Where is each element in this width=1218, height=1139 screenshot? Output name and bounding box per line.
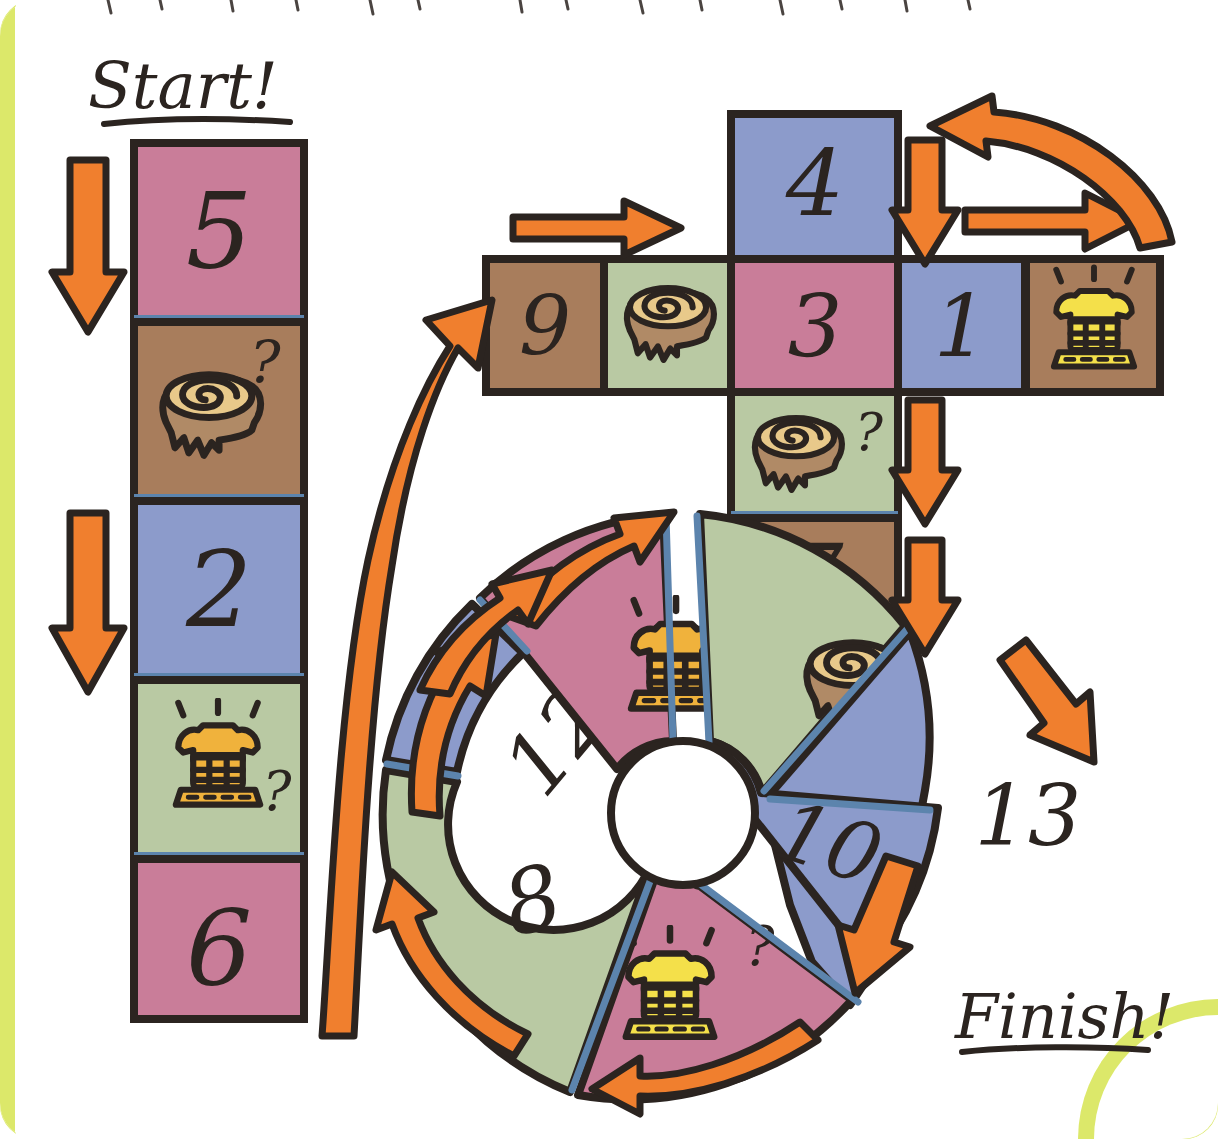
space-1[interactable]: 1	[898, 259, 1025, 392]
wheel-hole	[611, 741, 755, 885]
space-phone-a[interactable]: ?	[134, 680, 304, 856]
space-5[interactable]: 5	[134, 143, 304, 319]
space-stump-b[interactable]: ?	[731, 390, 898, 517]
question-mark: ?	[263, 760, 293, 823]
question-mark: ?	[249, 328, 281, 396]
space-number: 2	[185, 529, 252, 651]
space-4[interactable]: 4	[731, 114, 898, 259]
space-number: 6	[186, 888, 252, 1010]
finish-label-group: Finish!	[954, 980, 1174, 1053]
space-number: 9	[519, 279, 571, 374]
board-game-diagram: Start! 5 ?	[0, 0, 1218, 1139]
start-label: Start!	[88, 49, 278, 123]
space-9[interactable]: 9	[486, 259, 604, 392]
space-stump-a[interactable]: ?	[134, 322, 304, 498]
space-3[interactable]: 3	[731, 259, 898, 392]
cross-row: 9 3 1	[486, 259, 1160, 392]
space-number: 5	[186, 171, 252, 293]
space-number: 4	[785, 130, 845, 237]
space-number: 1	[934, 276, 989, 376]
question-mark: ?	[855, 402, 884, 462]
start-label-group: Start!	[88, 49, 290, 124]
finish-label: Finish!	[954, 980, 1174, 1053]
space-6[interactable]: 6	[134, 859, 304, 1019]
space-number: 3	[788, 276, 843, 376]
space-phone-b[interactable]	[1026, 259, 1160, 392]
diagram-canvas: Start! 5 ?	[0, 0, 1218, 1139]
space-2[interactable]: 2	[134, 501, 304, 677]
space-stump-c[interactable]	[604, 259, 731, 392]
segment-number: 13	[975, 767, 1082, 865]
start-column: 5 ? 2 ?	[134, 143, 304, 1019]
